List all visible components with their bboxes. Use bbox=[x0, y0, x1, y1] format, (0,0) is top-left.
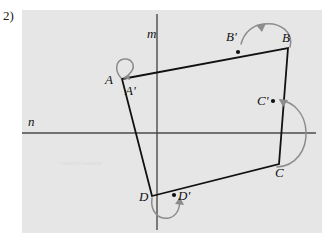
rotation-arc-c-arrowhead bbox=[279, 99, 288, 107]
vertex-label-c-prime: C' bbox=[257, 93, 269, 108]
axis-label-n: n bbox=[28, 114, 35, 129]
vertex-label-b: B bbox=[282, 30, 290, 45]
figure-root: 2) transformations bbox=[0, 0, 322, 233]
vertex-label-d: D bbox=[138, 189, 149, 204]
image-point-d-prime-dot bbox=[172, 193, 176, 197]
rotation-arc-d bbox=[152, 198, 180, 218]
vertex-label-a: A bbox=[104, 72, 113, 87]
axis-label-m: m bbox=[147, 26, 156, 41]
rotation-arc-b-arrowhead bbox=[256, 23, 266, 32]
rotation-arc-a bbox=[117, 59, 133, 78]
vertex-label-c: C bbox=[275, 165, 284, 180]
quadrilateral-abcd bbox=[122, 48, 288, 196]
image-point-c-prime-dot bbox=[271, 99, 275, 103]
panel-watermark: transformations bbox=[60, 160, 101, 166]
vertex-label-a-prime: A' bbox=[124, 83, 136, 98]
geometry-diagram: transformations m bbox=[0, 0, 322, 233]
vertex-label-b-prime: B' bbox=[226, 29, 237, 44]
vertex-label-d-prime: D' bbox=[177, 188, 190, 203]
image-point-b-prime-dot bbox=[236, 50, 240, 54]
